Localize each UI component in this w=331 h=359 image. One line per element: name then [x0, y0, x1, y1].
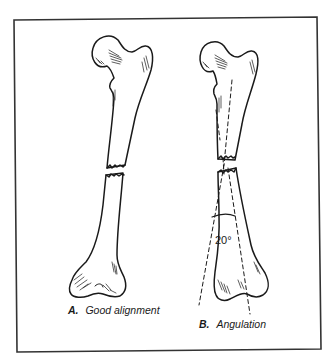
- femur-fracture-diagram: 20° A. Good alignment B. Angulation: [0, 0, 331, 359]
- distal-femur-fragment-a: [69, 173, 125, 297]
- caption-b-text: Angulation: [215, 318, 266, 330]
- caption-b-letter: B.: [199, 318, 210, 330]
- caption-a-letter: A.: [67, 304, 79, 316]
- caption-b: B. Angulation: [199, 318, 266, 330]
- caption-a: A. Good alignment: [67, 304, 161, 316]
- proximal-femur-fragment-b: [200, 42, 258, 160]
- caption-a-text: Good alignment: [85, 304, 160, 316]
- angle-label: 20°: [215, 234, 232, 246]
- proximal-femur-fragment-a: [92, 36, 152, 168]
- panel-b-angulation: [199, 42, 268, 314]
- panel-a-good-alignment: [69, 36, 152, 297]
- figure-frame: [14, 17, 321, 352]
